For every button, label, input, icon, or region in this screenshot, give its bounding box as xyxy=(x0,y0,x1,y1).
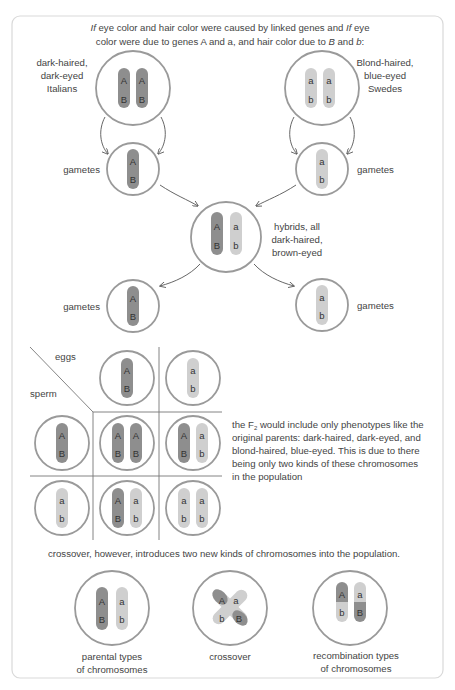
svg-text:b: b xyxy=(233,240,238,251)
svg-text:a: a xyxy=(199,495,205,506)
svg-text:b: b xyxy=(119,614,124,625)
title-line-1: If eye color and hair color were caused … xyxy=(91,22,370,33)
svg-text:a: a xyxy=(319,292,325,303)
svg-text:B: B xyxy=(130,311,136,322)
svg-text:B: B xyxy=(115,513,121,524)
svg-text:in the population: in the population xyxy=(232,471,302,482)
svg-text:a: a xyxy=(199,430,205,441)
italians-label-1: dark-haired, xyxy=(36,57,87,68)
svg-text:B: B xyxy=(236,613,242,624)
svg-text:B: B xyxy=(59,448,65,459)
figure-frame xyxy=(12,16,443,678)
svg-text:a: a xyxy=(326,75,332,86)
eggs-label: eggs xyxy=(55,351,76,362)
gametes-label: gametes xyxy=(63,164,100,175)
svg-text:B: B xyxy=(99,614,105,625)
svg-text:B: B xyxy=(214,240,220,251)
svg-text:a: a xyxy=(233,595,239,606)
crossover-sentence: crossover, however, introduces two new k… xyxy=(48,548,400,559)
svg-text:A: A xyxy=(339,589,346,600)
svg-text:original parents: dark-haired,: original parents: dark-haired, dark-eyed… xyxy=(232,432,421,443)
svg-text:A: A xyxy=(133,430,140,441)
svg-text:A: A xyxy=(130,293,137,304)
svg-text:a: a xyxy=(133,495,139,506)
svg-text:A: A xyxy=(99,596,106,607)
svg-text:the F2 would include only phen: the F2 would include only phenotypes lik… xyxy=(232,419,424,431)
parental-label-1: parental types xyxy=(82,651,142,662)
svg-text:A: A xyxy=(130,156,137,167)
svg-text:b: b xyxy=(308,94,313,105)
svg-text:b: b xyxy=(319,310,324,321)
svg-text:b: b xyxy=(199,448,204,459)
svg-text:b: b xyxy=(326,94,331,105)
svg-text:A: A xyxy=(59,430,66,441)
svg-text:a: a xyxy=(119,596,125,607)
svg-text:A: A xyxy=(139,75,146,86)
crossover-label: crossover xyxy=(209,651,251,662)
svg-text:B: B xyxy=(139,94,145,105)
svg-text:a: a xyxy=(357,589,363,600)
svg-text:b: b xyxy=(133,513,138,524)
gametes-label: gametes xyxy=(63,301,100,312)
svg-text:A: A xyxy=(124,365,131,376)
recombination-label-1: recombination types xyxy=(313,650,399,661)
swedes-label-3: Swedes xyxy=(368,83,402,94)
recombination-label-2: of chromosomes xyxy=(321,663,392,674)
svg-text:b: b xyxy=(339,607,344,618)
svg-text:b: b xyxy=(319,174,324,185)
hybrid-label-2: dark-haired, xyxy=(271,234,322,245)
hybrid-label-1: hybrids, all xyxy=(274,221,320,232)
svg-text:B: B xyxy=(357,607,363,618)
svg-text:B: B xyxy=(133,448,139,459)
svg-text:a: a xyxy=(181,495,187,506)
swedes-label-1: Blond-haired, xyxy=(356,57,413,68)
sperm-label: sperm xyxy=(30,388,57,399)
svg-text:a: a xyxy=(233,221,239,232)
svg-text:B: B xyxy=(115,448,121,459)
parental-label-2: of chromosomes xyxy=(77,664,148,675)
svg-text:B: B xyxy=(121,94,127,105)
swedes-label-2: blue-eyed xyxy=(364,70,406,81)
svg-text:B: B xyxy=(124,383,130,394)
svg-text:being only two kinds of these: being only two kinds of these chromosome… xyxy=(232,458,418,469)
italians-label-3: Italians xyxy=(47,83,78,94)
svg-text:A: A xyxy=(121,75,128,86)
gametes-label: gametes xyxy=(357,300,394,311)
svg-text:b: b xyxy=(181,513,186,524)
svg-text:a: a xyxy=(59,495,65,506)
svg-text:a: a xyxy=(308,75,314,86)
svg-text:A: A xyxy=(115,430,122,441)
title-line-2: color were due to genes A and a, and hai… xyxy=(96,36,364,47)
svg-text:b: b xyxy=(190,383,195,394)
svg-text:A: A xyxy=(115,495,122,506)
svg-text:B: B xyxy=(130,174,136,185)
svg-text:blond-haired, blue-eyed. This: blond-haired, blue-eyed. This is due to … xyxy=(232,445,420,456)
svg-text:A: A xyxy=(214,221,221,232)
svg-text:A: A xyxy=(219,595,226,606)
svg-text:A: A xyxy=(181,430,188,441)
svg-text:a: a xyxy=(190,365,196,376)
svg-text:B: B xyxy=(181,448,187,459)
svg-text:b: b xyxy=(219,613,224,624)
linkage-diagram: If eye color and hair color were caused … xyxy=(0,0,455,690)
svg-text:b: b xyxy=(199,513,204,524)
svg-text:a: a xyxy=(319,156,325,167)
gametes-label: gametes xyxy=(357,164,394,175)
svg-text:b: b xyxy=(59,513,64,524)
hybrid-label-3: brown-eyed xyxy=(272,247,322,258)
italians-label-2: dark-eyed xyxy=(41,70,84,81)
